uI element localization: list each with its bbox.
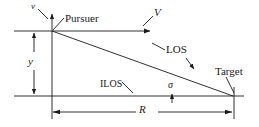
los-label-leader — [152, 43, 165, 50]
y-dimension-label: y — [28, 56, 33, 67]
velocity-axis-label: v — [31, 2, 35, 11]
diagram-canvas: v Pursuer V LOS Target ILOS σ y R — [0, 0, 259, 127]
v-label-leader — [38, 9, 48, 19]
ilos-label-leader — [122, 82, 133, 93]
pursuer-label-leader — [53, 18, 64, 30]
velocity-vector-label: V — [154, 7, 161, 18]
los-label: LOS — [166, 44, 187, 55]
los-direction-arrow — [186, 58, 194, 69]
pursuer-label: Pursuer — [65, 13, 99, 24]
R-dimension-label: R — [139, 104, 146, 115]
diagram-vector-graphics — [0, 0, 259, 127]
V-label-leader — [143, 16, 153, 26]
sigma-angle-label: σ — [168, 80, 173, 90]
target-label-leader — [226, 77, 234, 93]
ilos-label: ILOS — [100, 79, 122, 89]
target-label: Target — [215, 66, 243, 77]
line-of-sight — [52, 31, 233, 96]
